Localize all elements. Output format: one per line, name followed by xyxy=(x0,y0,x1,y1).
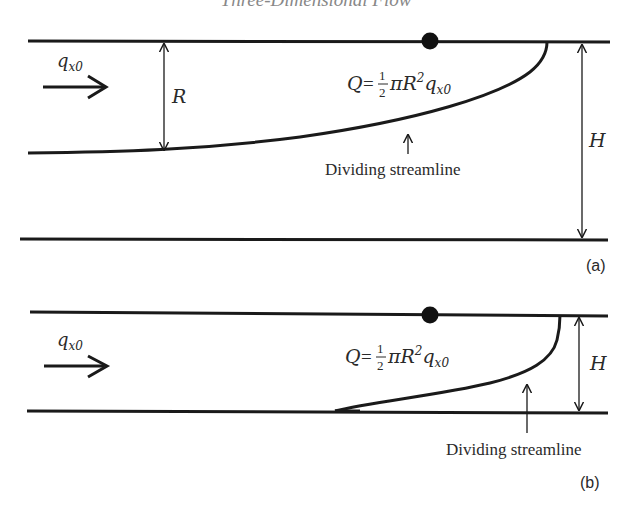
well-icon-b xyxy=(422,307,439,324)
panel-b: qx0 H Q = 1 2 πR2qx0 Dividing streamline… xyxy=(27,307,608,492)
bottom-wall-b xyxy=(27,411,608,413)
streamline-label-b: Dividing streamline xyxy=(446,440,582,459)
svg-text:Q: Q xyxy=(345,345,361,367)
height-label-a: H xyxy=(588,129,606,151)
svg-text:2: 2 xyxy=(377,358,384,373)
diagram-canvas: Three-Dimensional Flow qx0 R H Q = 1 2 π… xyxy=(0,0,632,519)
radius-label-a: R xyxy=(171,85,186,107)
panel-label-b: (b) xyxy=(580,474,600,491)
dividing-streamline-a xyxy=(28,42,547,153)
streamline-label-a: Dividing streamline xyxy=(325,160,461,179)
svg-text:1: 1 xyxy=(377,341,384,356)
flow-diagram: Three-Dimensional Flow qx0 R H Q = 1 2 π… xyxy=(0,0,632,519)
top-wall-a xyxy=(28,41,610,42)
discharge-equation-b: Q = 1 2 πR2qx0 xyxy=(345,341,449,373)
inflow-label-a: qx0 xyxy=(57,50,83,74)
svg-text:=: = xyxy=(361,346,372,367)
inflow-label-b: qx0 xyxy=(57,329,83,353)
inflow-arrow-b xyxy=(44,356,107,377)
height-label-b: H xyxy=(589,352,607,374)
svg-text:=: = xyxy=(363,73,374,94)
inflow-arrow-a xyxy=(43,76,106,98)
svg-text:2: 2 xyxy=(379,85,386,100)
svg-text:1: 1 xyxy=(379,68,386,83)
panel-a: qx0 R H Q = 1 2 πR2qx0 Dividing streamli… xyxy=(20,33,610,275)
well-icon-a xyxy=(422,33,439,50)
svg-text:Q: Q xyxy=(347,72,363,94)
panel-label-a: (a) xyxy=(586,257,606,274)
bottom-wall-a xyxy=(20,239,608,240)
discharge-equation-a: Q = 1 2 πR2qx0 xyxy=(347,68,451,100)
header-title: Three-Dimensional Flow xyxy=(221,0,412,10)
top-wall-b xyxy=(30,312,608,316)
svg-text:πR2qx0: πR2qx0 xyxy=(389,71,451,97)
svg-text:πR2qx0: πR2qx0 xyxy=(387,344,449,370)
